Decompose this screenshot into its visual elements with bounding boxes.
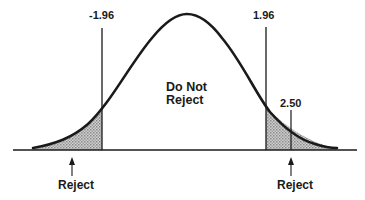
- right-arrow-icon: [288, 157, 294, 176]
- right-reject-label: Reject: [277, 179, 313, 191]
- left-rejection-region: [33, 110, 102, 150]
- left-reject-label: Reject: [58, 179, 94, 191]
- left-critical-value-label: -1.96: [89, 10, 114, 21]
- do-not-reject-label: Do Not Reject: [166, 81, 207, 107]
- right-critical-value-label: 1.96: [253, 10, 274, 21]
- right-rejection-region: [266, 107, 337, 150]
- test-statistic-label: 2.50: [280, 98, 301, 109]
- left-arrow-icon: [69, 157, 75, 176]
- do-not-reject-line2: Reject: [166, 94, 207, 107]
